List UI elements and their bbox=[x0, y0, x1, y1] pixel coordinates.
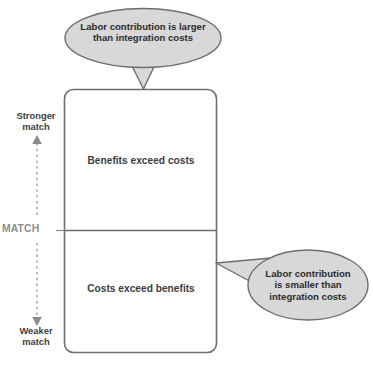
callout-top-label: Labor contribution is larger than integr… bbox=[68, 21, 218, 44]
diagram-root: Labor contribution is larger than integr… bbox=[0, 0, 373, 379]
match-box-outline bbox=[65, 90, 217, 353]
axis-stronger-match-label: Stronger match bbox=[3, 110, 69, 132]
match-box-lower-label: Costs exceed benefits bbox=[66, 283, 216, 295]
axis-match-label: MATCH bbox=[2, 223, 60, 235]
axis-weaker-match-label: Weaker match bbox=[3, 325, 69, 347]
match-box-upper-label: Benefits exceed costs bbox=[66, 155, 216, 167]
callout-right-label: Labor contribution is smaller than integ… bbox=[252, 268, 364, 302]
arrow-up-icon bbox=[32, 135, 42, 144]
diagram-canvas bbox=[0, 0, 373, 379]
